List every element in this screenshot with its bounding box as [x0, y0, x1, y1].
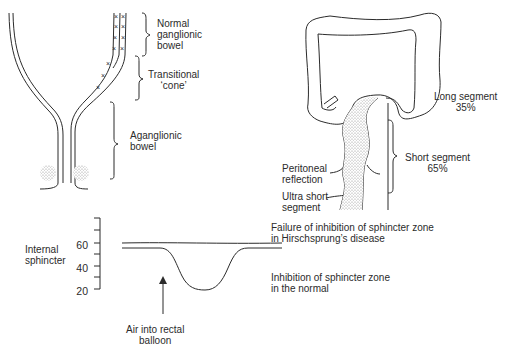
appendix	[324, 96, 338, 108]
svg-text:×: ×	[114, 13, 118, 20]
y-tick-60: 60	[68, 240, 88, 251]
curve-normal	[122, 248, 282, 290]
curve-failure	[122, 243, 282, 244]
label-line: bowel	[157, 40, 202, 51]
label-line: sphincter	[25, 255, 66, 266]
label-line: Air into rectal	[126, 324, 184, 335]
aganglionic-stipple	[340, 97, 378, 210]
ganglion-cell-markers: ×× ×× ×× ×× × × ×	[96, 13, 125, 91]
label-line: reflection	[282, 174, 327, 185]
bracket-short-segment	[388, 120, 397, 193]
y-tick-20: 20	[68, 286, 88, 297]
label-line: Peritoneal	[282, 163, 327, 174]
svg-text:×: ×	[121, 13, 125, 20]
label-line: in Hirschsprung’s disease	[271, 233, 434, 244]
bowel-longitudinal-diagram	[9, 13, 150, 189]
colon-outer	[306, 13, 441, 124]
label-line: Short segment	[405, 152, 470, 163]
label-line: Long segment	[434, 91, 497, 102]
label-percent: 35%	[434, 102, 497, 113]
svg-text:×: ×	[101, 72, 105, 79]
label-line: ganglionic	[157, 29, 202, 40]
label-long-segment: Long segment 35%	[434, 91, 497, 113]
label-transitional-cone: Transitional ‘cone’	[148, 69, 199, 91]
label-normal-ganglionic: Normal ganglionic bowel	[157, 18, 202, 51]
right-wall-outer	[75, 13, 126, 189]
label-line: Failure of inhibition of sphincter zone	[271, 222, 434, 233]
bracket-transitional	[135, 56, 143, 100]
label-line: in the normal	[271, 283, 390, 294]
svg-text:×: ×	[112, 45, 116, 52]
label-line: Inhibition of sphincter zone	[271, 272, 390, 283]
label-line: segment	[282, 202, 328, 213]
label-internal-sphincter: Internal sphincter	[25, 244, 66, 266]
peritoneal-reflection-right	[367, 165, 380, 174]
manometry-chart	[94, 218, 282, 314]
svg-text:×: ×	[106, 60, 110, 67]
label-line: Normal	[157, 18, 202, 29]
sphincter-stipple-right	[73, 165, 89, 181]
svg-text:×: ×	[113, 34, 117, 41]
label-line: Ultra short	[282, 191, 328, 202]
svg-text:×: ×	[121, 34, 125, 41]
label-air-into-rectal-balloon: Air into rectal balloon	[126, 324, 184, 346]
svg-text:×: ×	[121, 23, 125, 30]
arrow-head-icon	[159, 276, 167, 284]
right-wall-inner	[71, 13, 114, 183]
y-tick-40: 40	[68, 263, 88, 274]
label-ultra-short-segment: Ultra short segment	[282, 191, 328, 213]
label-peritoneal-reflection: Peritoneal reflection	[282, 163, 327, 185]
bracket-aganglionic	[110, 102, 118, 179]
label-line: Aganglionic	[130, 130, 182, 141]
label-failure-of-inhibition: Failure of inhibition of sphincter zone …	[271, 222, 434, 244]
svg-text:×: ×	[120, 45, 124, 52]
y-axis-ticks	[94, 218, 100, 289]
label-inhibition-normal: Inhibition of sphincter zone in the norm…	[271, 272, 390, 294]
bracket-normal	[142, 13, 150, 56]
label-short-segment: Short segment 65%	[405, 152, 470, 174]
label-line: Transitional	[148, 69, 199, 80]
svg-text:×: ×	[96, 84, 100, 91]
label-line: balloon	[126, 335, 184, 346]
svg-text:×: ×	[114, 23, 118, 30]
label-line: Internal	[25, 244, 66, 255]
label-line: bowel	[130, 141, 182, 152]
sphincter-stipple-left	[40, 165, 56, 181]
left-wall-outer	[9, 13, 58, 189]
label-aganglionic: Aganglionic bowel	[130, 130, 182, 152]
label-line: ‘cone’	[148, 80, 199, 91]
label-percent: 65%	[405, 163, 470, 174]
